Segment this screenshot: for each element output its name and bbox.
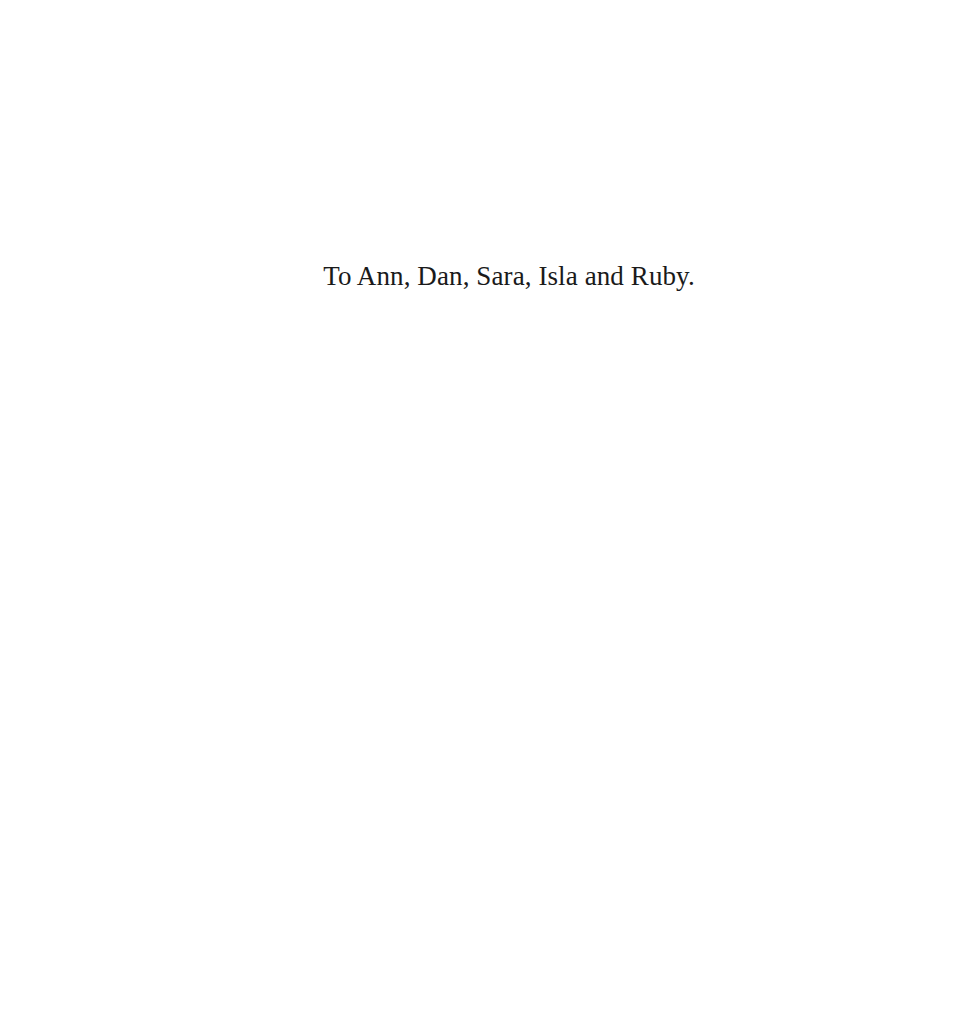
dedication-text: To Ann, Dan, Sara, Isla and Ruby. xyxy=(0,258,960,294)
document-page: To Ann, Dan, Sara, Isla and Ruby. xyxy=(0,0,960,1013)
